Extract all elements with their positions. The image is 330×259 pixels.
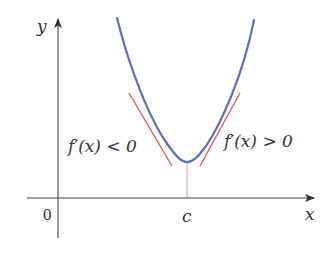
- origin-label: 0: [43, 205, 52, 224]
- negative-derivative-annotation: f′(x) < 0: [66, 136, 137, 156]
- critical-point-label: c: [182, 206, 192, 226]
- x-axis-label: x: [305, 204, 315, 224]
- derivative-sign-diagram: y 0 c x f′(x) < 0 f′(x) > 0: [0, 0, 330, 259]
- positive-derivative-annotation: f′(x) > 0: [222, 131, 293, 151]
- y-axis-label: y: [36, 16, 47, 36]
- right-tangent-line: [200, 93, 240, 166]
